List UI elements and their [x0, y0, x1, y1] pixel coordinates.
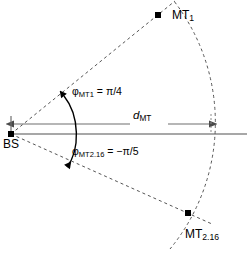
mt216-label: MT2.16	[185, 228, 219, 242]
mt1-marker	[155, 12, 161, 18]
geometry-diagram: BS MT1 MT2.16 φMT1 = π/4 φMT2.16 = −π/5 …	[0, 0, 247, 253]
angle-upper-label: φMT1 = π/4	[72, 86, 122, 99]
angle-lower-label: φMT2.16 = −π/5	[72, 146, 139, 159]
mt1-label: MT1	[172, 9, 194, 23]
distance-label: dMT	[133, 110, 151, 124]
mt216-marker	[185, 210, 191, 216]
diagram-canvas	[0, 0, 247, 253]
bs-label: BS	[3, 138, 19, 150]
